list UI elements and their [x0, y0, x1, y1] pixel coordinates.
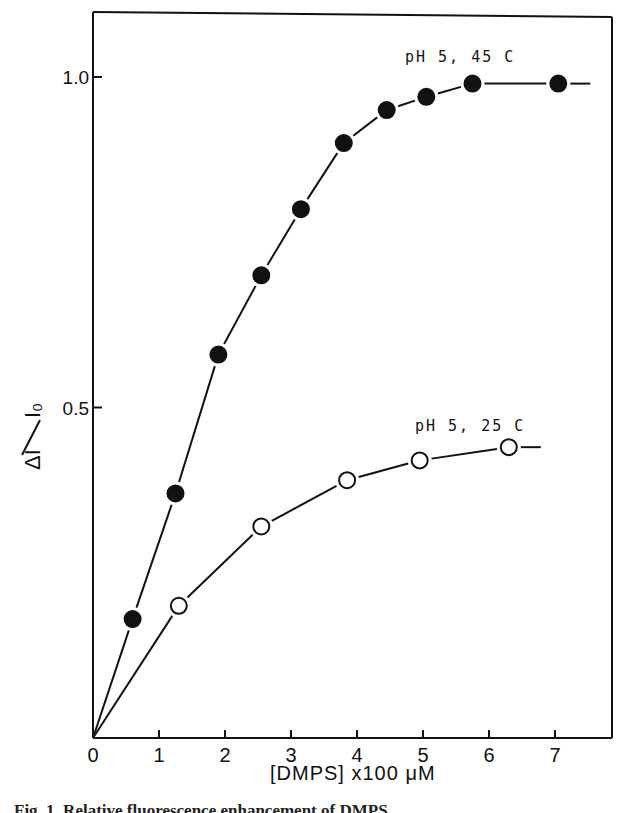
- svg-text:I₀: I₀: [20, 403, 45, 418]
- y-axis-label: ΔI I₀: [20, 403, 45, 470]
- figure-caption: Fig. 1. Relative fluorescence enhancemen…: [14, 800, 634, 813]
- y-tick-label: 1.0: [63, 67, 89, 88]
- chart-plot: 01234567 0.51.0 ΔI I₀ pH 5, 45 C pH 5, 2…: [0, 0, 634, 813]
- series-label-25c: pH 5, 25 C: [415, 417, 525, 435]
- series-ph-5-25-c: [93, 439, 541, 738]
- x-tick-label: 1: [153, 744, 164, 766]
- x-tick-label: 7: [549, 744, 560, 766]
- data-point: [171, 598, 187, 614]
- series-label-45c: pH 5, 45 C: [405, 48, 515, 66]
- x-axis-label: [DMPS] x100 μM: [270, 762, 436, 785]
- x-tick-label: 2: [219, 744, 230, 766]
- data-point: [412, 452, 428, 468]
- figure-caption-clip: Fig. 1. Relative fluorescence enhancemen…: [14, 800, 634, 813]
- x-axis-ticks: 01234567: [87, 730, 560, 766]
- plot-frame: [93, 12, 612, 738]
- data-point: [550, 76, 566, 92]
- data-point: [210, 347, 226, 363]
- data-point: [501, 439, 517, 455]
- series-ph-5-45-c: [93, 76, 590, 738]
- y-tick-label: 0.5: [63, 398, 89, 419]
- data-point: [253, 518, 269, 534]
- data-series: [93, 76, 590, 738]
- data-point: [253, 267, 269, 283]
- data-point: [125, 611, 141, 627]
- data-point: [293, 201, 309, 217]
- data-point: [379, 102, 395, 118]
- data-point: [336, 135, 352, 151]
- data-point: [418, 89, 434, 105]
- x-tick-label: 6: [483, 744, 494, 766]
- data-point: [465, 76, 481, 92]
- x-tick-label: 0: [87, 744, 98, 766]
- data-point: [168, 485, 184, 501]
- data-point: [339, 472, 355, 488]
- y-axis-ticks: 0.51.0: [63, 67, 102, 419]
